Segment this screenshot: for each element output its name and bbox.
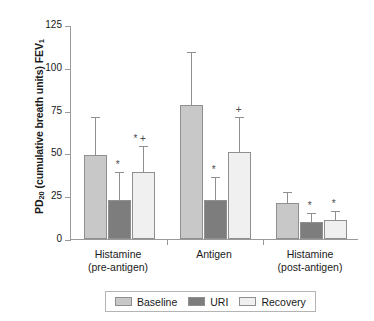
- error-bar-recovery-group3: [335, 211, 336, 221]
- bar-uri-group3: [300, 222, 323, 239]
- error-bar-baseline-group1: [95, 117, 96, 156]
- x-axis-group-label: Antigen: [166, 248, 262, 261]
- y-axis-tick: 0: [65, 240, 71, 241]
- y-axis-tick-label: 75: [28, 105, 62, 116]
- x-axis-group-label-line: Histamine: [262, 248, 358, 261]
- error-bar-cap: [331, 211, 340, 212]
- legend-swatch-recovery: [239, 297, 256, 306]
- x-axis-group-label: Histamine(pre-antigen): [70, 248, 166, 274]
- x-axis-tick: [167, 239, 168, 245]
- error-bar-uri-group3: [311, 213, 312, 223]
- y-axis-tick: 100: [65, 69, 71, 70]
- y-axis-tick: 125: [65, 26, 71, 27]
- y-axis-tick-label: 25: [28, 190, 62, 201]
- y-axis-tick: 50: [65, 154, 71, 155]
- error-bar-cap: [187, 52, 196, 53]
- bar-baseline-group3: [276, 203, 299, 239]
- bar-recovery-group2: [228, 152, 251, 239]
- error-bar-cap: [139, 146, 148, 147]
- bar-uri-group2: [204, 200, 227, 239]
- significance-marker: *: [332, 199, 336, 209]
- error-bar-recovery-group1: [143, 146, 144, 173]
- legend-label: URI: [210, 296, 228, 308]
- error-bar-cap: [91, 117, 100, 118]
- bar-recovery-group1: [132, 172, 155, 239]
- plot-area: 0255075100125** +*+**: [70, 26, 358, 240]
- significance-marker: *: [212, 165, 216, 175]
- x-axis-group-label-line: Antigen: [166, 248, 262, 261]
- bar-chart-figure: PD20 (cumulative breath units) FEV1 0255…: [0, 0, 374, 321]
- legend-item-recovery[interactable]: Recovery: [239, 296, 305, 308]
- bar-recovery-group3: [324, 220, 347, 239]
- y-axis-tick-label: 50: [28, 147, 62, 158]
- error-bar-baseline-group3: [287, 192, 288, 204]
- error-bar-recovery-group2: [239, 117, 240, 153]
- bar-baseline-group2: [180, 105, 203, 239]
- legend-label: Recovery: [261, 296, 305, 308]
- error-bar-cap: [211, 177, 220, 178]
- y-axis-tick: 75: [65, 112, 71, 113]
- legend-item-baseline[interactable]: Baseline: [115, 296, 177, 308]
- x-axis-group-label-line: Histamine: [70, 248, 166, 261]
- error-bar-uri-group1: [119, 172, 120, 201]
- y-axis-tick: 25: [65, 197, 71, 198]
- error-bar-cap: [307, 213, 316, 214]
- y-axis-tick-label: 0: [28, 233, 62, 244]
- significance-marker: *: [116, 160, 120, 170]
- y-axis-tick-label: 100: [28, 62, 62, 73]
- error-bar-baseline-group2: [191, 52, 192, 107]
- y-axis-title-sub-1: 1: [37, 39, 46, 43]
- chart-legend: BaselineURIRecovery: [105, 291, 316, 312]
- x-axis-tick: [263, 239, 264, 245]
- error-bar-cap: [283, 192, 292, 193]
- error-bar-cap: [235, 117, 244, 118]
- error-bar-cap: [115, 172, 124, 173]
- error-bar-uri-group2: [215, 177, 216, 201]
- y-axis-tick-label: 125: [28, 19, 62, 30]
- x-axis-group-label-line: (pre-antigen): [70, 261, 166, 274]
- x-axis-group-label: Histamine(post-antigen): [262, 248, 358, 274]
- legend-swatch-uri: [188, 297, 205, 306]
- significance-marker: *: [308, 201, 312, 211]
- legend-label: Baseline: [137, 296, 177, 308]
- y-axis-title-prefix: PD: [33, 199, 45, 213]
- legend-item-uri[interactable]: URI: [188, 296, 228, 308]
- significance-marker: * +: [133, 134, 146, 144]
- y-axis-title: PD20 (cumulative breath units) FEV1: [33, 12, 46, 242]
- bar-baseline-group1: [84, 155, 107, 239]
- significance-marker: +: [236, 105, 242, 115]
- bar-uri-group1: [108, 200, 131, 239]
- legend-swatch-baseline: [115, 297, 132, 306]
- x-axis-group-label-line: (post-antigen): [262, 261, 358, 274]
